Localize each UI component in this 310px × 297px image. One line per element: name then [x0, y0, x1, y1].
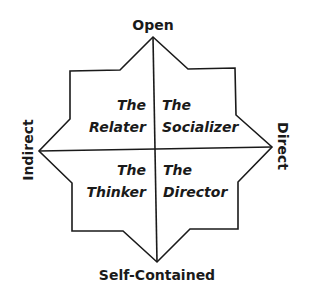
quadrant-socializer-line1: The: [162, 97, 191, 113]
axis-label-open: Open: [132, 17, 173, 33]
quadrant-director-line1: The: [163, 162, 192, 178]
axis-label-direct: Direct: [275, 122, 291, 170]
axis-label-self-contained: Self-Contained: [99, 267, 215, 283]
quadrant-thinker-line2: Thinker: [87, 184, 148, 200]
quadrant-socializer-line2: Socializer: [162, 119, 239, 135]
axis-label-indirect: Indirect: [20, 119, 36, 181]
quadrant-thinker-line1: The: [117, 162, 146, 178]
quadrant-director-line2: Director: [163, 184, 228, 200]
social-styles-diagram: Open Self-Contained Indirect Direct The …: [0, 0, 310, 297]
quadrant-relater-line2: Relater: [89, 119, 147, 135]
quadrant-relater-line1: The: [117, 97, 146, 113]
